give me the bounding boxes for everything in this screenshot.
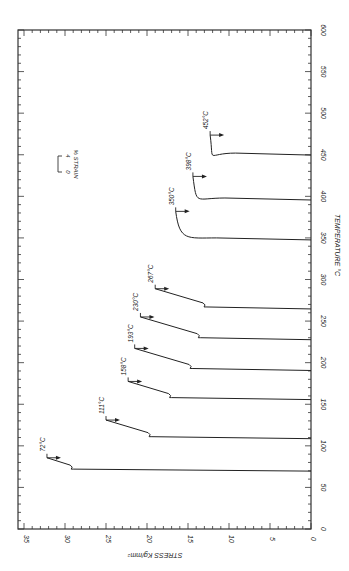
strain-scale-bar bbox=[58, 156, 62, 172]
stress-tick-label: 30 bbox=[64, 535, 71, 543]
y-axis-title: STRESS Kg/mm² bbox=[127, 551, 182, 559]
arrow-icon bbox=[56, 456, 61, 460]
x-axis-title: TEMPERATURE °C bbox=[334, 214, 341, 277]
arrow-icon bbox=[137, 379, 142, 383]
curve-temperature-label: 111°C bbox=[98, 397, 105, 414]
strain-curve bbox=[176, 211, 311, 240]
stress-tick-label: 10 bbox=[228, 535, 235, 543]
plot-border bbox=[18, 30, 311, 529]
strain-curve bbox=[193, 176, 311, 200]
strain-curve bbox=[128, 381, 311, 399]
strain-curve bbox=[106, 420, 311, 439]
arrow-icon bbox=[149, 315, 154, 319]
stress-tick-label: 0 bbox=[310, 537, 317, 541]
arrow-icon bbox=[144, 346, 149, 350]
temperature-tick-label: 250 bbox=[320, 314, 327, 327]
strain-curve bbox=[155, 289, 311, 309]
temperature-tick-label: 50 bbox=[320, 484, 327, 492]
stress-tick-label: 35 bbox=[23, 535, 30, 543]
arrow-icon bbox=[115, 418, 120, 422]
svg-text:4: 4 bbox=[65, 154, 71, 158]
stress-tick-label: 25 bbox=[105, 534, 112, 543]
stress-temperature-chart: 0501001502002503003504004505005506000510… bbox=[0, 0, 349, 571]
arrow-icon bbox=[185, 209, 190, 213]
curve-temperature-label: 452°C bbox=[202, 111, 209, 129]
svg-text:0: 0 bbox=[65, 170, 71, 174]
strain-curve bbox=[135, 348, 311, 370]
strain-curve bbox=[140, 317, 311, 340]
arrow-icon bbox=[202, 174, 207, 178]
strain-curve bbox=[210, 135, 311, 155]
arrow-icon bbox=[219, 133, 224, 137]
temperature-tick-label: 400 bbox=[320, 190, 327, 202]
curve-temperature-label: 398°C bbox=[185, 152, 192, 170]
temperature-tick-label: 550 bbox=[320, 66, 327, 78]
curve-temperature-label: 267°C bbox=[147, 264, 154, 283]
stress-tick-label: 20 bbox=[146, 534, 153, 543]
temperature-tick-label: 300 bbox=[320, 274, 327, 286]
axis-labels: 0501001502002503003504004505005506000510… bbox=[23, 24, 341, 559]
svg-text:% STRAIN: % STRAIN bbox=[73, 149, 79, 179]
temperature-tick-label: 500 bbox=[320, 107, 327, 119]
stress-tick-label: 15 bbox=[187, 535, 194, 543]
stress-tick-label: 5 bbox=[269, 537, 276, 541]
strain-curve bbox=[47, 458, 311, 471]
temperature-tick-label: 150 bbox=[320, 398, 327, 410]
curve-temperature-label: 350°C bbox=[168, 187, 175, 205]
curve-temperature-label: 230°C bbox=[132, 293, 139, 312]
plot-frame bbox=[18, 30, 311, 529]
curve-temperature-label: 158°C bbox=[120, 357, 127, 375]
arrow-icon bbox=[164, 287, 169, 291]
temperature-tick-label: 350 bbox=[320, 232, 327, 244]
temperature-tick-label: 450 bbox=[320, 149, 327, 161]
curve-temperature-label: 72°C bbox=[39, 437, 46, 452]
temperature-tick-label: 200 bbox=[320, 356, 327, 369]
stress-strain-curves bbox=[47, 131, 311, 471]
curve-temperature-label: 193°C bbox=[127, 324, 134, 342]
temperature-tick-label: 600 bbox=[320, 24, 327, 36]
temperature-tick-label: 0 bbox=[320, 527, 327, 531]
axis-ticks bbox=[18, 30, 311, 529]
temperature-tick-label: 100 bbox=[320, 440, 327, 452]
